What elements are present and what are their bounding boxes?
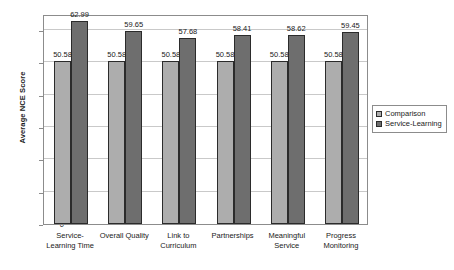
bar-service-learning — [71, 21, 88, 225]
legend-swatch-icon — [376, 111, 382, 117]
bar-value-label: 59.65 — [120, 21, 148, 29]
bar-value-label: 57.68 — [174, 28, 202, 36]
bar-value-label: 62.99 — [66, 11, 94, 19]
bar-service-learning — [125, 31, 142, 224]
bar-comparison — [325, 61, 342, 224]
y-axis-title: Average NCE Score — [18, 38, 27, 178]
bar-service-learning — [234, 35, 251, 224]
bar-comparison — [54, 61, 71, 224]
gridline — [44, 94, 367, 95]
gridline — [44, 126, 367, 127]
bar-value-label: 58.41 — [228, 25, 256, 33]
bar-comparison — [217, 61, 234, 224]
gridline — [44, 61, 367, 62]
legend-swatch-icon — [376, 121, 382, 127]
bar-service-learning — [288, 35, 305, 224]
bar-chart: Average NCE Score 0102030405060 50.5862.… — [0, 0, 454, 270]
gridline — [44, 191, 367, 192]
legend-item-service-learning: Service-Learning — [376, 119, 442, 129]
chart-legend: Comparison Service-Learning — [372, 105, 447, 133]
legend-label: Comparison — [385, 109, 425, 119]
x-category-label: Progress Monitoring — [307, 231, 375, 250]
bar-comparison — [162, 61, 179, 224]
legend-item-comparison: Comparison — [376, 109, 442, 119]
gridline — [44, 29, 367, 30]
plot-area: 50.5862.9950.5859.6550.5857.6850.5858.41… — [43, 15, 368, 225]
bar-service-learning — [179, 38, 196, 224]
y-tick-mark — [39, 225, 43, 226]
bar-service-learning — [342, 32, 359, 224]
legend-label: Service-Learning — [385, 119, 442, 129]
gridline — [44, 158, 367, 159]
bar-value-label: 59.45 — [336, 22, 364, 30]
bar-comparison — [271, 61, 288, 224]
bar-value-label: 58.62 — [282, 25, 310, 33]
bar-comparison — [108, 61, 125, 224]
